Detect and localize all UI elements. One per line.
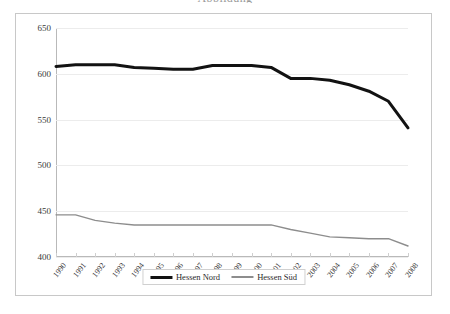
y-tick-label: 650 [38,23,52,33]
x-tick-label: 1990 [51,261,68,279]
x-tick-label: 2003 [305,261,322,279]
x-tick-label: 2006 [364,261,381,279]
x-tick [408,253,409,257]
chart-legend: Hessen Nord Hessen Süd [142,269,305,285]
x-tick-label: 2005 [344,261,361,279]
legend-line-icon-sued [231,276,253,278]
x-tick-label: 1992 [90,261,107,279]
legend-label-sued: Hessen Süd [257,272,297,282]
x-tick-label: 1991 [71,261,88,279]
legend-label-nord: Hessen Nord [176,272,220,282]
series-lines [56,28,408,257]
legend-line-icon-nord [150,276,172,279]
y-tick-label: 550 [38,115,52,125]
x-tick-label: 2008 [403,261,420,279]
clipped-title-text: Abbildung [0,0,450,3]
legend-item-hessen-sued: Hessen Süd [231,272,297,282]
y-tick-label: 500 [38,160,52,170]
y-tick-label: 450 [38,206,52,216]
series-line-hessen-nord [56,65,408,128]
legend-item-hessen-nord: Hessen Nord [150,272,220,282]
chart-frame: 400450500550600650 199019911992199319941… [15,13,432,296]
plot-area: 400450500550600650 199019911992199319941… [56,28,408,257]
chart-screenshot: Abbildung 400450500550600650 19901991199… [0,0,450,314]
y-tick-label: 400 [38,252,52,262]
x-tick-label: 2004 [325,261,342,279]
x-tick-label: 1993 [110,261,127,279]
series-line-hessen-s-d [56,215,408,246]
gridline [56,257,408,258]
x-tick-label: 2007 [384,261,401,279]
y-tick-label: 600 [38,69,52,79]
